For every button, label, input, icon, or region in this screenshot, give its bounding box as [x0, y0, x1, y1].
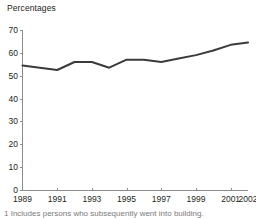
x-axis-tick-label: 1997 — [152, 194, 171, 204]
y-axis-tick-label: 20 — [9, 139, 19, 149]
y-axis-tick-label: 70 — [9, 25, 19, 35]
x-axis-tick-labels: 19891991199319951997199920012002 — [13, 194, 256, 204]
line-chart-plot: 706050403020100 198919911993199519971999… — [0, 0, 256, 219]
x-axis-tick-label: 1991 — [48, 194, 67, 204]
x-axis-tick-label: 1999 — [187, 194, 206, 204]
x-axis-tick-label: 1993 — [82, 194, 101, 204]
y-axis-tick-label: 50 — [9, 71, 19, 81]
chart-container: Percentages 706050403020100 198919911993… — [0, 0, 256, 219]
y-axis-tick-label: 40 — [9, 94, 19, 104]
x-axis-tick-label: 2001 — [221, 194, 240, 204]
y-axis-tick-label: 60 — [9, 48, 19, 58]
data-series-line — [23, 43, 249, 70]
y-axis-tick-label: 30 — [9, 116, 19, 126]
x-axis-tick-label: 1989 — [13, 194, 32, 204]
y-axis-tick-label: 10 — [9, 162, 19, 172]
figure-caption: 1 Includes persons who subsequently went… — [4, 209, 252, 218]
x-axis-tick-label: 1995 — [117, 194, 136, 204]
y-axis-tick-labels: 706050403020100 — [9, 25, 19, 195]
x-axis-tick-label: 2002 — [239, 194, 256, 204]
